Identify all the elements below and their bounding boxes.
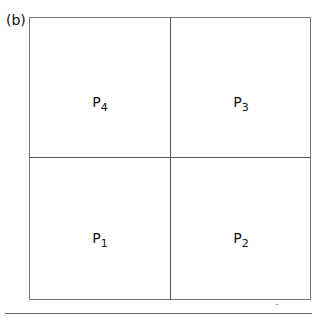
bottom-rule (5, 313, 312, 314)
small-mark (275, 304, 279, 305)
quadrant-label-p4: P4 (92, 94, 107, 114)
quadrant-label-p2: P2 (233, 230, 248, 250)
panel-label: (b) (6, 12, 26, 28)
vertical-divider (170, 17, 171, 300)
quadrant-label-p3: P3 (233, 94, 248, 114)
quadrant-label-p1: P1 (92, 230, 107, 250)
horizontal-divider (29, 157, 311, 158)
